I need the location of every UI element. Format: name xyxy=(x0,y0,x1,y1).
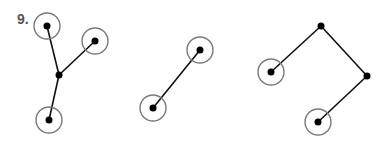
vertex xyxy=(197,47,204,54)
vertex xyxy=(46,117,53,124)
vertex xyxy=(268,69,275,76)
vertex xyxy=(315,119,322,126)
vertex xyxy=(92,38,99,45)
graph-2 xyxy=(140,37,213,121)
graph-1 xyxy=(34,13,108,133)
vertex xyxy=(56,72,63,79)
vertex xyxy=(150,105,157,112)
vertex xyxy=(44,23,51,30)
vertex xyxy=(318,23,325,30)
edge xyxy=(59,41,95,75)
graphs-figure xyxy=(0,0,379,145)
edge xyxy=(271,26,321,72)
vertex xyxy=(364,73,371,80)
edge xyxy=(49,75,59,120)
edge xyxy=(321,26,367,76)
edge xyxy=(318,76,367,122)
graph-3 xyxy=(258,23,371,136)
edge xyxy=(153,50,200,108)
